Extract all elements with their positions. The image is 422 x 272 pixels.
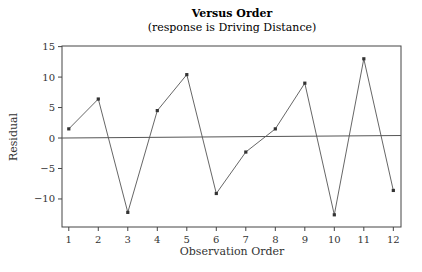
plot-area: 151050−5−10123456789101112 xyxy=(34,41,401,245)
y-tick-label: −10 xyxy=(34,193,55,204)
data-point xyxy=(97,97,100,100)
y-axis-label: Residual xyxy=(7,112,20,161)
x-tick-label: 9 xyxy=(302,234,308,245)
data-point xyxy=(392,189,395,192)
x-tick-label: 1 xyxy=(66,234,72,245)
x-tick-label: 3 xyxy=(125,234,131,245)
y-tick-label: −5 xyxy=(40,163,55,174)
data-point xyxy=(274,127,277,130)
chart-title: Versus Order xyxy=(191,7,273,20)
x-tick-label: 11 xyxy=(357,234,370,245)
y-tick-label: 10 xyxy=(42,72,55,83)
chart-subtitle: (response is Driving Distance) xyxy=(148,21,317,34)
data-point xyxy=(303,82,306,85)
data-point xyxy=(215,192,218,195)
y-tick-label: 5 xyxy=(49,102,55,113)
x-axis-label: Observation Order xyxy=(180,245,285,258)
data-point xyxy=(156,109,159,112)
data-point xyxy=(126,211,129,214)
data-point xyxy=(244,150,247,153)
data-point xyxy=(362,57,365,60)
x-tick-label: 2 xyxy=(95,234,101,245)
x-tick-label: 7 xyxy=(243,234,249,245)
data-point xyxy=(333,213,336,216)
x-tick-label: 12 xyxy=(387,234,400,245)
x-tick-label: 4 xyxy=(154,234,160,245)
x-tick-label: 8 xyxy=(272,234,278,245)
zero-reference-line xyxy=(62,136,401,139)
x-tick-label: 10 xyxy=(328,234,341,245)
y-tick-label: 0 xyxy=(49,133,55,144)
data-point xyxy=(185,73,188,76)
data-point xyxy=(67,127,70,130)
x-tick-label: 5 xyxy=(184,234,190,245)
x-tick-label: 6 xyxy=(213,234,219,245)
y-tick-label: 15 xyxy=(42,41,55,52)
residual-vs-order-chart: Versus Order (response is Driving Distan… xyxy=(0,0,422,272)
